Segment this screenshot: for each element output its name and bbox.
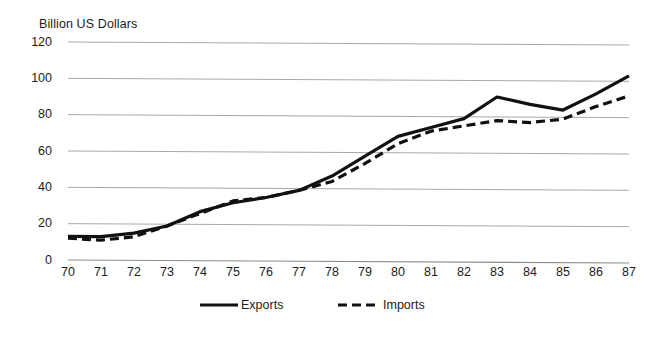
gridline (68, 115, 629, 118)
data-series (68, 76, 629, 240)
axis-lines (68, 260, 629, 263)
plot-area (0, 0, 645, 340)
chart-container: Billion US Dollars 020406080100120 70717… (0, 0, 645, 340)
legend-item-imports: Imports (337, 298, 425, 312)
gridline (68, 42, 629, 45)
chart-legend: Exports Imports (0, 298, 645, 322)
gridlines (68, 42, 629, 227)
gridline (68, 151, 629, 154)
dashed-line-icon (337, 298, 377, 312)
x-axis-line (68, 260, 629, 263)
solid-line-icon (199, 298, 239, 312)
legend-item-exports: Exports (199, 298, 283, 312)
legend-label-exports: Exports (239, 298, 283, 312)
series-line-exports (68, 76, 629, 237)
legend-label-imports: Imports (377, 298, 425, 312)
gridline (68, 187, 629, 190)
gridline (68, 78, 629, 81)
gridline (68, 224, 629, 227)
